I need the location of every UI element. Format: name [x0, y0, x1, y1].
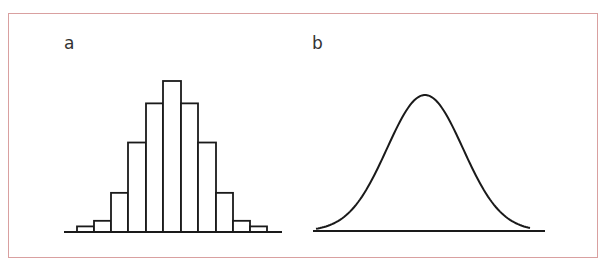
diagram-canvas	[0, 0, 605, 271]
histogram-bar	[94, 221, 111, 232]
histogram-bar	[198, 143, 216, 232]
histogram-bar	[146, 103, 163, 232]
histogram-bar	[233, 221, 250, 232]
histogram-bar	[128, 143, 146, 232]
histogram	[77, 81, 267, 232]
histogram-bar	[181, 103, 198, 232]
histogram-bar	[216, 193, 233, 232]
histogram-bar	[163, 81, 181, 232]
histogram-bar	[111, 193, 128, 232]
normal-curve	[316, 95, 530, 229]
